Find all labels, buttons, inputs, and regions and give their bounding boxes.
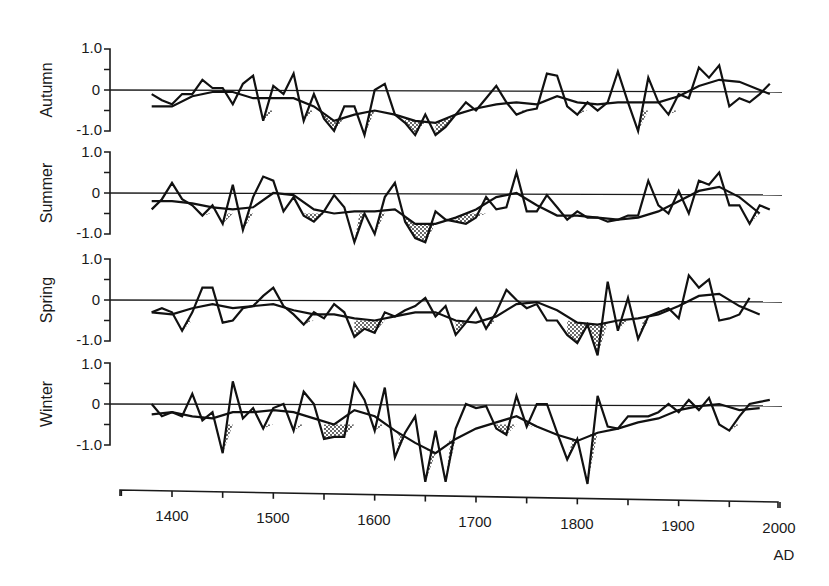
y-tick-bottom: -1.0 bbox=[76, 121, 102, 138]
seasonal-index-chart: Autumn 1.0 0 -1.0 Summer 1.0 0 -1.0 Spri… bbox=[0, 0, 829, 586]
x-axis-ticks bbox=[121, 490, 780, 508]
panel-label-spring: Spring bbox=[38, 277, 55, 323]
x-axis-unit: AD bbox=[774, 546, 795, 563]
smoothed-line bbox=[152, 187, 760, 224]
panel-spring: Spring 1.0 0 -1.0 bbox=[38, 250, 782, 355]
y-tick-zero: 0 bbox=[92, 395, 100, 412]
y-tick-bottom: -1.0 bbox=[76, 224, 102, 241]
panel-winter: Winter 1.0 0 -1.0 bbox=[38, 355, 782, 484]
panel-autumn: Autumn 1.0 0 -1.0 bbox=[38, 39, 782, 138]
decadal-index-line bbox=[152, 65, 770, 135]
x-tick-1600: 1600 bbox=[357, 511, 390, 528]
smoothed-line bbox=[152, 80, 770, 123]
y-tick-zero: 0 bbox=[92, 184, 100, 201]
zero-line bbox=[104, 90, 782, 92]
zero-line bbox=[104, 300, 782, 302]
panel-label-autumn: Autumn bbox=[38, 62, 55, 117]
x-tick-1700: 1700 bbox=[458, 513, 491, 530]
panel-label-winter: Winter bbox=[38, 380, 55, 427]
x-tick-1900: 1900 bbox=[661, 517, 694, 534]
zero-line bbox=[104, 404, 782, 406]
x-tick-1500: 1500 bbox=[256, 509, 289, 526]
panel-label-summer: Summer bbox=[38, 162, 55, 223]
y-tick-top: 1.0 bbox=[81, 39, 102, 56]
x-tick-1400: 1400 bbox=[155, 507, 188, 524]
y-tick-top: 1.0 bbox=[81, 355, 102, 372]
panel-summer: Summer 1.0 0 -1.0 bbox=[38, 143, 782, 242]
y-tick-bottom: -1.0 bbox=[76, 331, 102, 348]
decadal-index-line bbox=[152, 275, 750, 355]
y-tick-zero: 0 bbox=[92, 291, 100, 308]
x-tick-2000: 2000 bbox=[762, 519, 795, 536]
y-tick-top: 1.0 bbox=[81, 143, 102, 160]
decadal-index-line bbox=[152, 381, 770, 484]
y-tick-bottom: -1.0 bbox=[76, 436, 102, 453]
x-tick-1800: 1800 bbox=[560, 515, 593, 532]
x-axis: 1400 1500 1600 1700 1800 1900 2000 AD bbox=[120, 490, 796, 563]
y-tick-zero: 0 bbox=[92, 81, 100, 98]
y-tick-top: 1.0 bbox=[81, 250, 102, 267]
